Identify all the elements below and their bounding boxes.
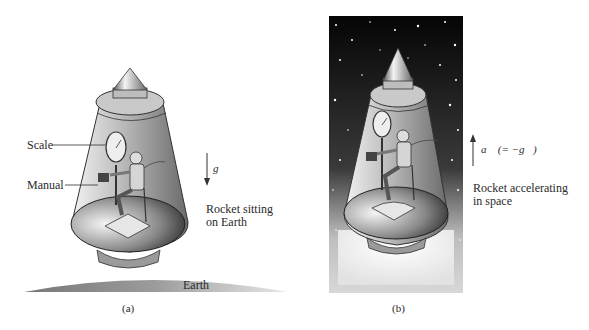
earth-label: Earth: [183, 279, 209, 292]
scale-label: Scale: [27, 139, 53, 152]
rocket-illustration-a: [0, 0, 300, 330]
arrow-down-icon: [204, 178, 210, 186]
rocket-illustration-b: [300, 0, 589, 330]
description-line-2: in space: [473, 195, 512, 208]
panel-b-rocket-in-space: a⃗ (= −g⃗) Rocket accelerating in space …: [300, 0, 589, 330]
arrow-up-icon: [470, 134, 476, 142]
earth-surface: [24, 280, 288, 292]
gravity-vector-label: g⃗: [213, 162, 227, 174]
manual-label: Manual: [27, 179, 64, 192]
description-line-2: on Earth: [206, 216, 247, 229]
acceleration-vector-label: a⃗ (= −g⃗): [481, 143, 537, 155]
caption-a: (a): [122, 302, 134, 314]
panel-a-rocket-on-earth: Scale Manual g⃗ Rocket sitting on Earth …: [0, 0, 300, 330]
caption-b: (b): [392, 302, 405, 314]
